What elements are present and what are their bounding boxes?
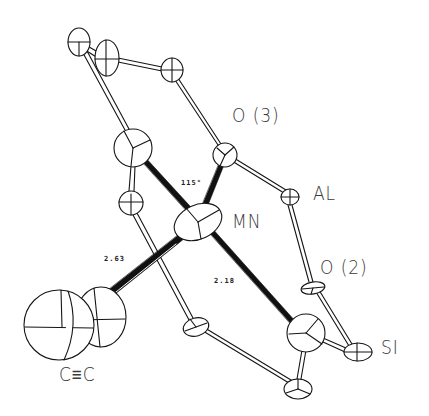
label-cc: C≡C (59, 365, 96, 384)
atom-o3 (213, 143, 237, 167)
atom-t1 (68, 28, 90, 56)
label-distance-mn: 2.18 (214, 278, 235, 285)
atoms (24, 28, 372, 399)
atom-t3 (161, 58, 183, 82)
label-si: SI (381, 338, 399, 357)
ortep-structure-figure (0, 0, 429, 416)
atom-c2 (24, 290, 94, 360)
label-al: AL (313, 184, 336, 203)
label-angle: 115° (181, 180, 202, 187)
label-o2: O (2) (320, 258, 368, 277)
label-distance-cc: 2.63 (104, 256, 125, 263)
atom-l2 (119, 191, 143, 215)
atom-m1 (181, 315, 211, 339)
atom-o2 (300, 280, 326, 296)
atom-al (281, 189, 299, 205)
atom-l1 (114, 129, 152, 167)
atom-r1 (287, 314, 325, 352)
label-o3: O (3) (232, 106, 280, 125)
atom-b1 (284, 379, 312, 399)
atom-t2 (95, 40, 119, 76)
label-mn: MN (232, 212, 261, 231)
atom-si (344, 343, 372, 361)
